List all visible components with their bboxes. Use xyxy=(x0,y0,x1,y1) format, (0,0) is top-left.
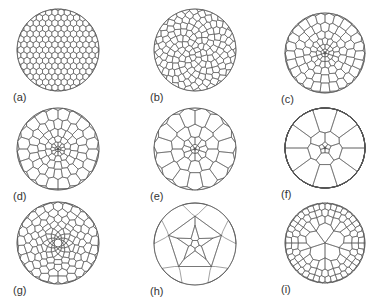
center-defect xyxy=(57,148,59,150)
panel-g xyxy=(15,200,101,286)
tessellation-d xyxy=(15,106,101,192)
panel-label-h: (h) xyxy=(150,286,163,297)
panel-c xyxy=(283,11,367,95)
tessellation-c xyxy=(283,11,367,95)
panel-e xyxy=(152,106,238,192)
cell-edges xyxy=(17,9,99,91)
cell-edges xyxy=(285,203,365,283)
center-defect xyxy=(324,52,326,54)
center-defect xyxy=(194,148,196,150)
panel-label-f: (f) xyxy=(281,189,291,200)
panel-f xyxy=(283,106,367,190)
tessellation-f xyxy=(283,106,367,190)
tessellation-i xyxy=(283,201,367,285)
panel-label-c: (c) xyxy=(281,94,294,105)
cell-edges xyxy=(154,203,236,285)
cell-edges xyxy=(154,9,236,91)
center-hole xyxy=(54,239,62,247)
circle-boundary xyxy=(154,203,236,285)
tessellation-g xyxy=(15,200,101,286)
panel-label-b: (b) xyxy=(150,92,163,103)
panel-d xyxy=(15,106,101,192)
panel-label-a: (a) xyxy=(13,92,26,103)
panel-h xyxy=(152,201,238,287)
panel-label-g: (g) xyxy=(13,285,26,296)
center-defect xyxy=(324,147,326,149)
tessellation-h xyxy=(152,201,238,287)
panel-b xyxy=(152,7,238,93)
tessellation-a xyxy=(15,7,101,93)
panel-i xyxy=(283,201,367,285)
panel-a xyxy=(15,7,101,93)
tessellation-e xyxy=(152,106,238,192)
panel-label-i: (i) xyxy=(281,284,291,295)
tessellation-b xyxy=(152,7,238,93)
